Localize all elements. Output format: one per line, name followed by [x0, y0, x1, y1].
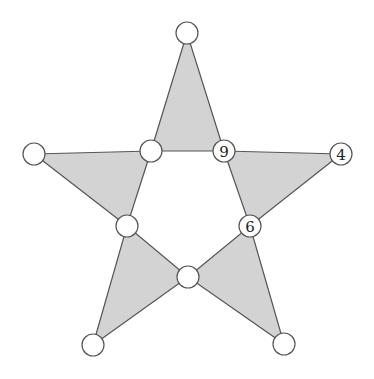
- node-outer-bottom-left: [82, 334, 104, 356]
- node-label: 9: [219, 143, 229, 161]
- node-label: 4: [336, 146, 346, 164]
- node-label: 6: [245, 218, 255, 236]
- triangle-left: [34, 151, 151, 226]
- triangle-top: [151, 33, 224, 151]
- node-inner-bottom: [177, 266, 199, 288]
- triangle-bottom-left: [93, 226, 188, 345]
- node-outer-bottom-right: [273, 333, 295, 355]
- triangle-bottom-right: [188, 226, 284, 344]
- node-outer-top: [176, 22, 198, 44]
- node-inner-left: [116, 215, 138, 237]
- node-outer-left: [23, 143, 45, 165]
- triangle-right: [224, 151, 341, 226]
- star-triangles: [34, 33, 341, 345]
- star-diagram: 496: [0, 0, 374, 379]
- node-inner-top-left: [140, 140, 162, 162]
